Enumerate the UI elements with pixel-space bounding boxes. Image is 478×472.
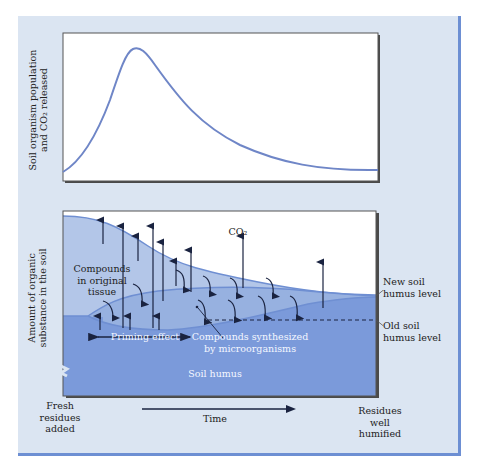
compounds-synth-line2: by microorganisms <box>190 343 310 355</box>
start-line2: residues <box>35 412 85 424</box>
compounds-original-line1: Compounds <box>62 263 142 275</box>
time-label: Time <box>195 413 235 425</box>
compounds-original-line2: in original <box>62 275 142 287</box>
bottom-ylabel-line2: substance in the soil <box>37 238 48 358</box>
fresh-residues-label: Fresh residues added <box>35 400 85 435</box>
compounds-synthesized-label: Compounds synthesized by microorganisms <box>190 331 310 354</box>
new-level-line1: New soil <box>383 276 453 288</box>
top-chart <box>60 30 385 188</box>
end-line3: humified <box>350 428 410 440</box>
compounds-original-label: Compounds in original tissue <box>62 263 142 298</box>
new-humus-level-label: New soil humus level <box>383 276 453 299</box>
old-humus-level-label: Old soil humus level <box>383 320 453 343</box>
priming-effect-label: Priming effect <box>100 331 190 343</box>
top-ylabel-line1: Soil organism population <box>27 45 38 175</box>
compounds-original-line3: tissue <box>62 286 142 298</box>
soil-humus-label: Soil humus <box>180 368 250 380</box>
start-line1: Fresh <box>35 400 85 412</box>
end-line1: Residues <box>350 405 410 417</box>
top-chart-ylabel: Soil organism population and CO₂ release… <box>27 45 51 175</box>
compounds-synth-line1: Compounds synthesized <box>190 331 310 343</box>
bottom-chart-ylabel: Amount of organic substance in the soil <box>26 238 50 358</box>
top-ylabel-line2: and CO₂ released <box>38 45 49 175</box>
old-level-line1: Old soil <box>383 320 453 332</box>
co2-label: CO₂ <box>218 226 258 238</box>
residues-humified-label: Residues well humified <box>350 405 410 440</box>
start-line3: added <box>35 423 85 435</box>
bottom-ylabel-line1: Amount of organic <box>26 238 37 358</box>
old-level-line2: humus level <box>383 332 453 344</box>
new-level-line2: humus level <box>383 288 453 300</box>
end-line2: well <box>350 417 410 429</box>
